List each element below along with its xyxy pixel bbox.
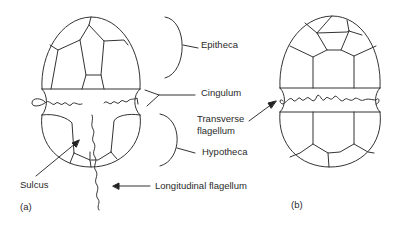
label-cingulum: Cingulum xyxy=(201,87,241,98)
hypotheca-bracket xyxy=(160,114,177,166)
label-longitudinal-flagellum: Longitudinal flagellum xyxy=(155,180,247,191)
transverse-flagellum-b xyxy=(280,95,379,104)
label-transverse-line1: Transverse xyxy=(197,113,244,124)
panel-label-b: (b) xyxy=(291,199,303,210)
panel-label-a: (a) xyxy=(20,201,32,212)
cell-a xyxy=(32,17,150,210)
label-epitheca: Epitheca xyxy=(201,39,238,50)
transverse-flagellum-a-left xyxy=(32,99,82,106)
transverse-flagellum-a-right xyxy=(104,98,138,104)
dinoflagellate-diagram: Epitheca Cingulum Transverse flagellum H… xyxy=(0,0,398,238)
longitudinal-flagellum xyxy=(92,115,99,210)
cingulum-leader xyxy=(145,90,195,95)
epitheca-bracket xyxy=(165,17,182,78)
epitheca-outline-b xyxy=(280,16,380,88)
label-sulcus: Sulcus xyxy=(20,179,49,190)
label-transverse-line2: flagellum xyxy=(197,125,235,136)
transverse-pointer xyxy=(249,104,272,121)
sulcus-pointer xyxy=(36,143,76,176)
label-hypotheca: Hypotheca xyxy=(202,146,247,157)
cell-b xyxy=(280,16,381,167)
hypotheca-outline-b xyxy=(280,112,381,167)
